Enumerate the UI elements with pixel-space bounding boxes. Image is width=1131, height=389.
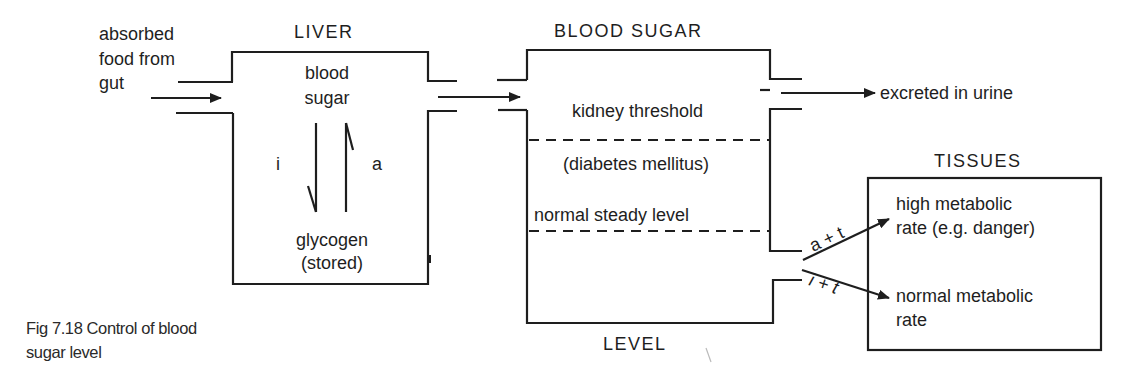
liver-outlet-channel (497, 80, 527, 110)
adrenaline-label: a (372, 154, 383, 174)
svg-text:gut: gut (99, 73, 124, 93)
level-title: LEVEL (603, 334, 667, 354)
glycogenesis-arrow-icon (308, 123, 316, 212)
insulin-label: i (276, 154, 280, 174)
liver-blood-sugar-text: blood (305, 63, 349, 83)
svg-text:sugar: sugar (304, 88, 349, 108)
liver-box-mark (428, 255, 431, 263)
svg-text:sugar level: sugar level (26, 343, 101, 361)
liver-title: LIVER (294, 22, 354, 42)
a-plus-t-label: a + t (806, 222, 847, 255)
svg-text:food from: food from (99, 49, 175, 69)
blood-sugar-control-diagram: absorbed food from gut LIVER blood sugar… (0, 0, 1131, 389)
svg-text:absorbed: absorbed (99, 24, 174, 44)
high-rate-text: high metabolic (896, 194, 1012, 214)
diabetes-text: (diabetes mellitus) (563, 154, 709, 174)
normal-rate-text: normal metabolic (896, 286, 1033, 306)
figure-caption: Fig 7.18 Control of blood (26, 319, 197, 337)
input-label: absorbed food from gut (99, 24, 175, 93)
glycogenolysis-arrow-icon (346, 123, 353, 212)
kidney-threshold-text: kidney threshold (572, 101, 703, 121)
blood-sugar-title: BLOOD SUGAR (554, 21, 703, 41)
svg-text:rate: rate (896, 310, 927, 330)
liver-glycogen-text: glycogen (296, 230, 368, 250)
normal-level-text: normal steady level (534, 205, 689, 225)
scan-artifact (706, 348, 711, 362)
svg-text:rate (e.g. danger): rate (e.g. danger) (896, 218, 1035, 238)
tissues-title: TISSUES (934, 151, 1022, 171)
i-plus-t-label: i + t (807, 270, 842, 298)
svg-text:(stored): (stored) (301, 253, 363, 273)
excreted-text: excreted in urine (880, 83, 1013, 103)
